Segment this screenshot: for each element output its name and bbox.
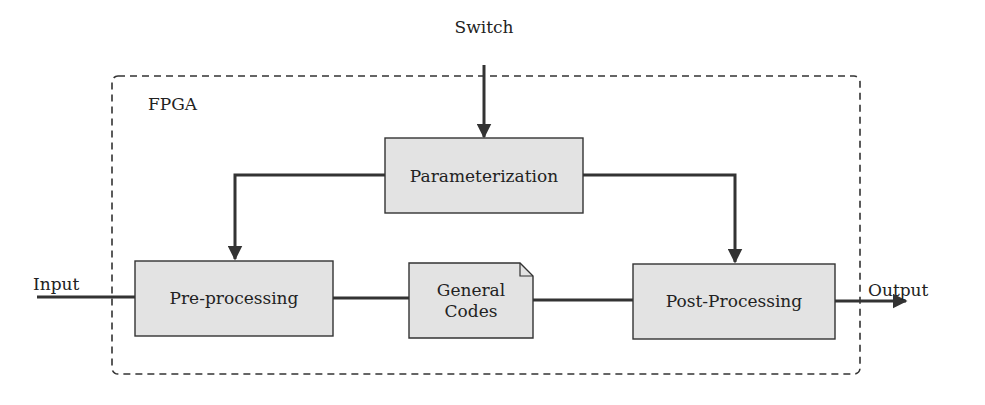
preprocessing-block: Pre-processing bbox=[135, 261, 333, 336]
fpga-label: FPGA bbox=[148, 94, 198, 114]
general-codes-block: General Codes bbox=[409, 263, 533, 338]
general-codes-label-line1: General bbox=[437, 280, 505, 300]
param-to-preprocessing-arrow bbox=[235, 175, 385, 259]
general-codes-label-line2: Codes bbox=[445, 301, 498, 321]
input-label: Input bbox=[33, 274, 79, 294]
param-to-postprocessing-arrow bbox=[583, 175, 735, 262]
switch-label: Switch bbox=[455, 17, 514, 37]
postprocessing-label: Post-Processing bbox=[666, 291, 802, 311]
postprocessing-block: Post-Processing bbox=[633, 264, 835, 339]
preprocessing-label: Pre-processing bbox=[170, 288, 299, 308]
parameterization-label: Parameterization bbox=[410, 166, 558, 186]
output-label: Output bbox=[868, 280, 929, 300]
parameterization-block: Parameterization bbox=[385, 138, 583, 213]
fpga-block-diagram: FPGA Switch Input Output Parameterizatio… bbox=[0, 0, 985, 405]
